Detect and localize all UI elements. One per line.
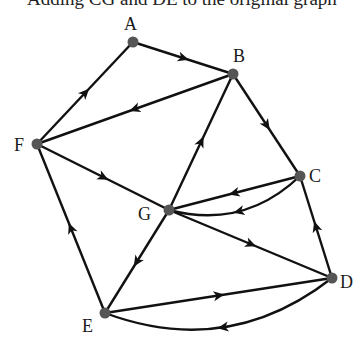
node-B [228, 69, 239, 80]
node-label-C: C [309, 166, 321, 186]
node-label-A: A [124, 14, 137, 34]
edge-E-F [37, 144, 105, 313]
node-label-D: D [340, 272, 353, 292]
node-D [327, 273, 338, 284]
node-label-E: E [82, 316, 93, 336]
edge-E-D [105, 278, 332, 313]
node-G [164, 205, 175, 216]
node-E [100, 308, 111, 319]
edge-F-A [37, 42, 133, 144]
node-A [128, 37, 139, 48]
node-label-G: G [138, 204, 151, 224]
node-F [32, 139, 43, 150]
edge-B-F [37, 74, 233, 144]
edge-F-G [37, 144, 169, 210]
arrowhead-icon [260, 118, 270, 130]
edges-layer [37, 42, 332, 331]
edge-G-D [169, 210, 332, 278]
edge-G-E [105, 210, 169, 313]
edge-B-C [233, 74, 300, 176]
directed-graph: ABCDEFG [0, 0, 364, 350]
node-label-F: F [14, 135, 24, 155]
node-C [295, 171, 306, 182]
edge-D-E-curved [105, 278, 332, 331]
node-label-B: B [233, 46, 245, 66]
edge-D-C [300, 176, 332, 278]
edge-A-B [133, 42, 233, 74]
